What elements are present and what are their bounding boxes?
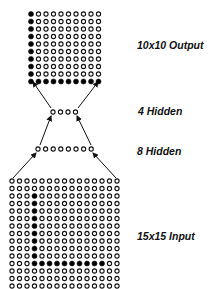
node-active [32,224,37,229]
node-active [70,261,75,266]
node-inactive [70,276,74,280]
node-inactive [55,201,59,205]
node-inactive [107,201,111,205]
node-inactive [10,216,14,220]
node-inactive [77,269,81,273]
node-inactive [32,284,36,288]
node-inactive [74,34,78,38]
node-active [32,239,37,244]
node-inactive [89,64,93,68]
node-inactive [92,284,96,288]
node-active [29,12,34,17]
node-active [29,49,34,54]
node-inactive [10,261,14,265]
node-inactive [47,254,51,258]
node-inactive [62,239,66,243]
node-inactive [85,224,89,228]
node-inactive [107,186,111,190]
node-inactive [107,276,111,280]
node-inactive [100,284,104,288]
node-inactive [10,231,14,235]
node-active [47,261,52,266]
node-inactive [85,216,89,220]
node-inactive [89,57,93,61]
node-inactive [17,239,21,243]
hidden-8-layer-label: 8 Hidden [137,146,181,157]
node-inactive [62,179,66,183]
node-inactive [77,254,81,258]
node-inactive [74,27,78,31]
node-inactive [17,224,21,228]
node-inactive [62,194,66,198]
node-inactive [44,72,48,76]
node-inactive [81,57,85,61]
node-inactive [36,27,40,31]
node-inactive [62,269,66,273]
node-inactive [74,12,78,16]
node-inactive [74,49,78,53]
node-inactive [115,239,119,243]
node-active [77,261,82,266]
node-inactive [40,254,44,258]
node-inactive [62,216,66,220]
node-inactive [81,12,85,16]
node-active [92,261,97,266]
node-inactive [100,179,104,183]
node-inactive [100,209,104,213]
node-inactive [44,57,48,61]
node-inactive [40,276,44,280]
node-active [29,27,34,32]
node-inactive [115,254,119,258]
node-inactive [36,64,40,68]
node-inactive [62,231,66,235]
node-inactive [44,42,48,46]
node-inactive [44,12,48,16]
node-inactive [85,186,89,190]
node-inactive [66,49,70,53]
node-inactive [92,201,96,205]
node-active [32,201,37,206]
node-inactive [115,194,119,198]
node-inactive [62,201,66,205]
node-inactive [66,110,70,114]
node-inactive [107,194,111,198]
node-inactive [17,209,21,213]
node-inactive [73,110,77,114]
node-inactive [70,194,74,198]
node-inactive [59,64,63,68]
node-inactive [92,246,96,250]
node-inactive [51,12,55,16]
node-active [32,261,37,266]
node-inactive [55,284,59,288]
node-inactive [92,179,96,183]
node-inactive [59,27,63,31]
node-active [74,79,79,84]
node-inactive [47,201,51,205]
node-inactive [92,276,96,280]
node-inactive [10,284,14,288]
node-inactive [115,209,119,213]
node-active [62,261,67,266]
node-inactive [107,254,111,258]
node-inactive [85,194,89,198]
node-inactive [44,19,48,23]
node-inactive [70,254,74,258]
node-inactive [115,186,119,190]
node-inactive [47,284,51,288]
node-inactive [55,179,59,183]
node-inactive [77,284,81,288]
node-inactive [25,186,29,190]
node-inactive [81,19,85,23]
node-inactive [92,254,96,258]
node-inactive [44,49,48,53]
node-inactive [10,201,14,205]
node-inactive [89,42,93,46]
node-inactive [10,269,14,273]
node-inactive [10,179,14,183]
node-active [32,231,37,236]
node-inactive [77,216,81,220]
arrow [40,116,51,145]
node-inactive [58,110,62,114]
node-inactive [77,194,81,198]
node-inactive [96,27,100,31]
